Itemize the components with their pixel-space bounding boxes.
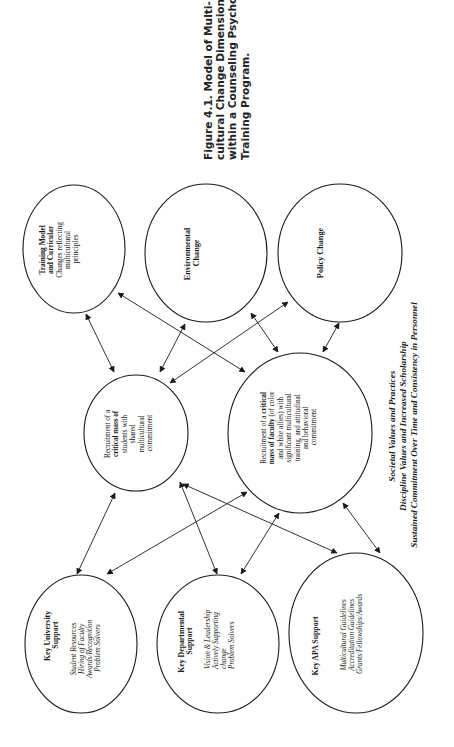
svg-text:Student Resources Hiri: Student Resources Hiring of Faculty Awar… [70, 618, 102, 679]
node-item: Problem Solvers [94, 624, 102, 673]
node-label: commitment [310, 409, 318, 445]
arrow-policy-faculty [323, 323, 339, 352]
arrow-environmental-students [160, 324, 185, 372]
node-key-university-support: Key University Support Student Resources… [25, 575, 137, 713]
node-label: Recruitment of a [260, 414, 268, 464]
arrow-environmental-faculty [251, 313, 278, 352]
node-item: Grants/Fellowships/Awards [356, 594, 364, 674]
node-label: Environmental [183, 227, 192, 280]
context-text: Societal Values and Practices Discipline… [387, 302, 419, 548]
caption-line: Training Program. [239, 53, 251, 160]
node-label: and white allies) with [277, 396, 285, 458]
context-line: Societal Values and Practices [387, 370, 397, 481]
node-label: students with [121, 414, 129, 453]
node-item: Student Resources [70, 622, 78, 675]
context-line: Sustained Commitment Over Time and Consi… [409, 302, 419, 548]
node-item: Problem Solvers [228, 621, 236, 670]
node-item: Vision & Leadership [204, 609, 212, 669]
node-title: Support [185, 627, 194, 655]
node-title: Support [51, 621, 60, 649]
node-item: Awards/Recognition [86, 619, 94, 678]
arrow-faculty-university [107, 492, 247, 574]
arrow-training-faculty [118, 293, 245, 372]
node-label: principles [71, 234, 80, 263]
node-outline [145, 184, 267, 322]
node-label: shared [129, 424, 137, 443]
node-key-departmental-support: Key Departmental Support Vision & Leader… [157, 575, 279, 713]
svg-text:Vision & Leadership Ac: Vision & Leadership Actively Supporting … [204, 608, 236, 670]
node-label: commitment [146, 415, 154, 451]
node-item: Accreditation Guidelines [348, 599, 356, 672]
caption-line: Figure 4.1. Model of Multi- [202, 1, 214, 160]
node-item: Actively Supporting [212, 612, 220, 670]
node-label: training, and attitudinal [294, 394, 302, 461]
node-title: Key APA Support [311, 616, 320, 676]
node-label: Change [192, 239, 201, 266]
svg-text:Multicultural Guidelines: Multicultural Guidelines Accreditation G… [340, 594, 364, 674]
node-label: Recruitment of a [104, 409, 112, 458]
node-environmental-change: Environmental Change [145, 184, 267, 322]
node-label: multicultural [138, 415, 146, 452]
node-item: Hiring of Faculty [78, 623, 86, 675]
node-label: Policy Change [316, 228, 325, 279]
node-label: (of color [268, 391, 276, 418]
node-label: significant multicultural [285, 393, 293, 462]
figure-caption: Figure 4.1. Model of Multi- cultural Cha… [202, 0, 251, 160]
svg-text:Recruitment of a critical: Recruitment of a critical mass of facult… [260, 390, 318, 464]
svg-text:Key University Support: Key University Support [43, 609, 60, 661]
node-faculty: Recruitment of a critical mass of facult… [228, 353, 372, 513]
svg-text:Key APA Support: Key APA Support [311, 616, 320, 676]
arrow-faculty-apa [343, 503, 380, 553]
arrow-students-university [77, 493, 115, 574]
svg-text:Training Model and Cur: Training Model and Curricular Changes re… [38, 220, 80, 277]
svg-text:Key Departmental Suppo: Key Departmental Support [177, 609, 194, 673]
node-key-apa-support: Key APA Support Multicultural Guidelines… [289, 553, 423, 713]
caption-line: within a Counseling Psychology [226, 0, 238, 160]
node-training-model: Training Model and Curricular Changes re… [23, 185, 125, 313]
caption-line: cultural Change Dimensions [214, 0, 226, 160]
svg-text:Societal Values and Practices: Societal Values and Practices Discipline… [387, 302, 419, 548]
arrow-faculty-departmental [241, 513, 279, 574]
arrow-training-students [86, 314, 114, 372]
svg-text:Figure 4.1. Model of Mult: Figure 4.1. Model of Multi- cultural Cha… [202, 0, 251, 160]
svg-text:Policy Change: Policy Change [316, 228, 325, 279]
node-policy-change: Policy Change [278, 184, 402, 322]
node-item: Multicultural Guidelines [340, 599, 348, 671]
node-label: and behavioral [302, 407, 310, 450]
context-line: Discipline Values and Increased Scholars… [398, 341, 408, 512]
node-students: Recruitment of a critical mass of studen… [84, 375, 188, 491]
node-label-bold: mass of faculty [268, 418, 276, 464]
node-outline [278, 184, 402, 322]
node-label: critical mass of [112, 410, 120, 457]
node-label-bold: critical [260, 392, 268, 414]
figure-page: Figure 4.1. Model of Multi- cultural Cha… [0, 0, 454, 747]
svg-text:Recruitment of a criti: Recruitment of a critical mass of studen… [104, 408, 154, 458]
svg-text:Environmental Change: Environmental Change [183, 226, 201, 281]
node-item: change [220, 647, 228, 669]
arrow-policy-students [170, 302, 288, 383]
diagram-canvas: Figure 4.1. Model of Multi- cultural Cha… [0, 0, 454, 747]
